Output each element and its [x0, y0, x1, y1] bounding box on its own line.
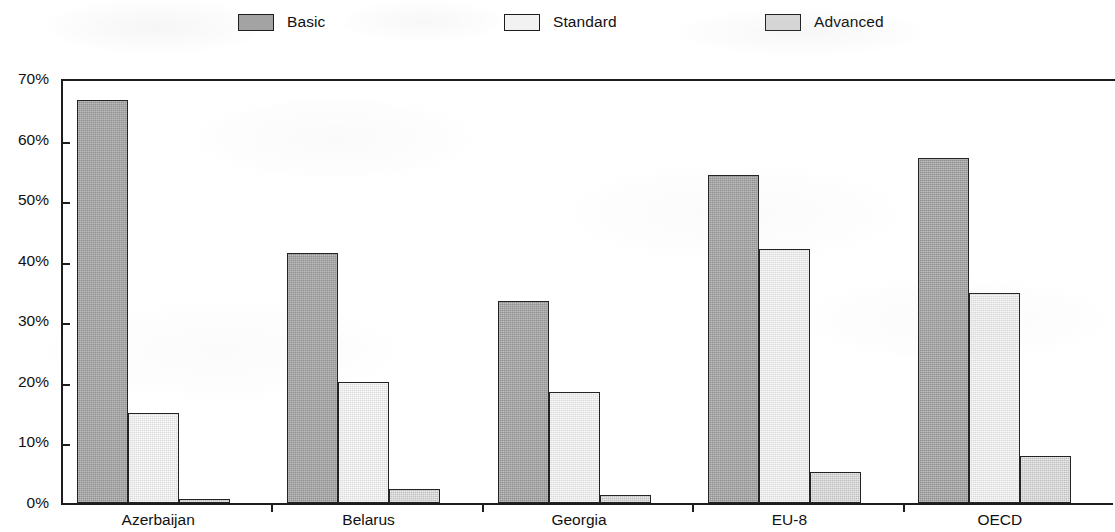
- bar-advanced-georgia: [600, 495, 651, 503]
- bar-standard-oecd: [969, 293, 1020, 503]
- bar-group: [287, 79, 440, 503]
- y-tick-mark: [62, 384, 70, 386]
- legend-item-basic: Basic: [238, 13, 325, 31]
- x-tick-mark: [692, 503, 694, 512]
- legend-label-standard: Standard: [553, 13, 617, 31]
- y-tick-mark: [62, 444, 70, 446]
- legend-item-advanced: Advanced: [765, 13, 884, 31]
- x-axis-line: [61, 503, 1113, 505]
- bar-standard-georgia: [549, 392, 600, 503]
- bar-advanced-azerbaijan: [179, 499, 230, 503]
- bar-basic-eu-8: [708, 175, 759, 503]
- bar-standard-azerbaijan: [128, 413, 179, 503]
- advanced-swatch-icon: [765, 14, 801, 31]
- bar-basic-oecd: [918, 158, 969, 503]
- basic-swatch-icon: [238, 14, 274, 31]
- bar-basic-georgia: [498, 301, 549, 503]
- y-tick-label: 50%: [18, 191, 49, 209]
- bar-standard-belarus: [338, 382, 389, 503]
- y-tick-label: 30%: [18, 312, 49, 330]
- y-tick-label: 40%: [18, 252, 49, 270]
- bar-basic-azerbaijan: [77, 100, 128, 503]
- bar-basic-belarus: [287, 253, 338, 503]
- y-tick-mark: [62, 142, 70, 144]
- bar-chart: 0%10%20%30%40%50%60%70% AzerbaijanBelaru…: [0, 58, 1113, 532]
- bar-advanced-eu-8: [810, 472, 861, 503]
- bar-standard-eu-8: [759, 249, 810, 503]
- x-category-label: Azerbaijan: [122, 511, 195, 529]
- x-category-label: OECD: [977, 511, 1022, 529]
- bar-group: [918, 79, 1071, 503]
- y-tick-label: 60%: [18, 131, 49, 149]
- x-tick-mark: [271, 503, 273, 512]
- bar-group: [77, 79, 230, 503]
- y-tick-label: 20%: [18, 373, 49, 391]
- bar-group: [708, 79, 861, 503]
- chart-legend: Basic Standard Advanced: [0, 0, 1113, 58]
- bar-group: [498, 79, 651, 503]
- y-tick-mark: [62, 323, 70, 325]
- x-tick-mark: [903, 503, 905, 512]
- y-tick-mark: [62, 263, 70, 265]
- y-tick-label: 10%: [18, 433, 49, 451]
- y-axis: 0%10%20%30%40%50%60%70%: [0, 58, 56, 532]
- x-category-label: Belarus: [342, 511, 395, 529]
- y-tick-label: 70%: [18, 70, 49, 88]
- x-category-label: EU-8: [772, 511, 807, 529]
- bar-advanced-oecd: [1020, 456, 1071, 503]
- y-tick-mark: [62, 202, 70, 204]
- legend-item-standard: Standard: [504, 13, 617, 31]
- y-tick-label: 0%: [27, 494, 49, 512]
- legend-label-advanced: Advanced: [814, 13, 884, 31]
- x-category-label: Georgia: [551, 511, 606, 529]
- x-tick-mark: [482, 503, 484, 512]
- standard-swatch-icon: [504, 14, 540, 31]
- legend-label-basic: Basic: [287, 13, 325, 31]
- bar-advanced-belarus: [389, 489, 440, 503]
